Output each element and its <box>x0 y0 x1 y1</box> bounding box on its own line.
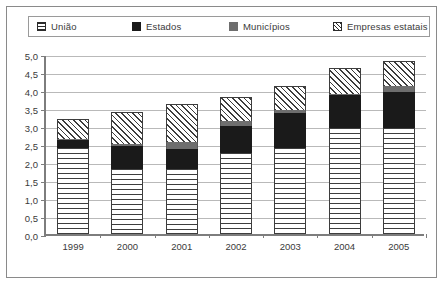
plot-wrapper: 0,00,51,01,52,02,53,03,54,04,55,0 199920… <box>0 0 443 290</box>
y-axis-label: 3,0 <box>25 123 38 134</box>
bar-2004[interactable] <box>329 68 361 234</box>
bar-segment <box>166 169 198 234</box>
bar-segment <box>274 148 306 234</box>
y-axis-tick <box>41 128 46 129</box>
bar-segment <box>329 95 361 127</box>
gridline <box>46 74 426 75</box>
bar-segment <box>111 146 143 169</box>
y-axis-label: 0,0 <box>25 231 38 242</box>
x-axis-tick <box>372 234 373 238</box>
bar-segment <box>383 61 415 86</box>
y-axis-label: 4,0 <box>25 87 38 98</box>
y-axis-tick <box>41 110 46 111</box>
x-axis-label-2005: 2005 <box>388 241 409 252</box>
x-axis-tick <box>317 234 318 238</box>
bar-1999[interactable] <box>57 119 89 234</box>
bar-segment <box>274 86 306 109</box>
bar-segment <box>166 142 198 149</box>
bar-2002[interactable] <box>220 97 252 234</box>
gridline <box>46 92 426 93</box>
y-axis-tick <box>41 56 46 57</box>
x-axis-label-2002: 2002 <box>225 241 246 252</box>
gridline <box>46 56 426 57</box>
bar-segment <box>274 113 306 147</box>
y-axis-label: 1,5 <box>25 177 38 188</box>
y-axis-tick <box>41 182 46 183</box>
x-axis-tick <box>426 234 427 238</box>
bar-segment <box>383 92 415 128</box>
x-axis-label-2004: 2004 <box>334 241 355 252</box>
x-axis-tick <box>209 234 210 238</box>
bar-segment <box>111 169 143 234</box>
bar-segment <box>57 119 89 139</box>
y-axis-label: 3,5 <box>25 105 38 116</box>
y-axis-label: 2,5 <box>25 141 38 152</box>
y-axis-label: 5,0 <box>25 51 38 62</box>
bar-2001[interactable] <box>166 104 198 234</box>
bar-segment <box>329 128 361 234</box>
y-axis-label: 0,5 <box>25 213 38 224</box>
x-axis-label-2003: 2003 <box>280 241 301 252</box>
y-axis-tick <box>41 218 46 219</box>
y-axis-label: 1,0 <box>25 195 38 206</box>
x-axis-label-1999: 1999 <box>63 241 84 252</box>
bar-2003[interactable] <box>274 86 306 234</box>
plot-area: 0,00,51,01,52,02,53,03,54,04,55,0 199920… <box>44 56 424 236</box>
y-axis-tick <box>41 236 46 237</box>
bar-segment <box>220 153 252 234</box>
chart-figure: União Estados Municípios Empresas estata… <box>0 0 443 290</box>
bar-segment <box>57 140 89 147</box>
y-axis-tick <box>41 164 46 165</box>
y-axis-tick <box>41 200 46 201</box>
x-axis-label-2001: 2001 <box>171 241 192 252</box>
y-axis-label: 2,0 <box>25 159 38 170</box>
x-axis-tick <box>155 234 156 238</box>
x-axis-tick <box>100 234 101 238</box>
y-axis-label: 4,5 <box>25 69 38 80</box>
y-axis-tick <box>41 146 46 147</box>
bar-segment <box>111 112 143 144</box>
x-axis-tick <box>263 234 264 238</box>
bar-segment <box>329 68 361 93</box>
x-axis-label-2000: 2000 <box>117 241 138 252</box>
bar-2000[interactable] <box>111 112 143 234</box>
bar-2005[interactable] <box>383 61 415 234</box>
bar-segment <box>220 126 252 153</box>
y-axis-tick <box>41 74 46 75</box>
bar-segment <box>383 128 415 234</box>
bar-segment <box>166 104 198 142</box>
bar-segment <box>57 148 89 234</box>
y-axis-tick <box>41 92 46 93</box>
bar-segment <box>166 149 198 169</box>
bar-segment <box>220 97 252 120</box>
